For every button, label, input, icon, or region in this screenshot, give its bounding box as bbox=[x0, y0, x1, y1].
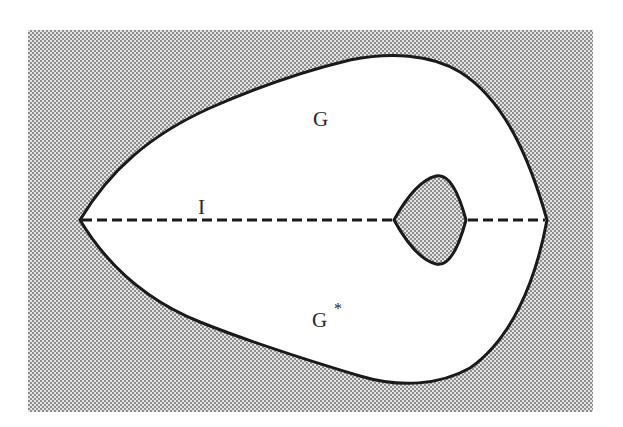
region-label-g-star: G bbox=[312, 308, 327, 332]
domain-diagram: G I G * bbox=[0, 0, 623, 427]
region-label-g-star-superscript: * bbox=[334, 300, 342, 317]
region-label-g: G bbox=[313, 107, 328, 131]
interval-label-i: I bbox=[198, 195, 205, 219]
